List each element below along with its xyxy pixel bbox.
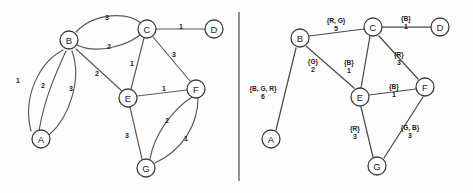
node-label-c: C [370,22,377,33]
edge-set-label: {G, B} [401,124,420,132]
edge-weight-label: 2 [41,82,45,89]
edge-weight-label: 1 [162,85,166,92]
left-panel-edges [29,16,205,163]
edge-a-b [29,50,63,131]
edge-weight-label: 3 [408,132,412,139]
edge-weight-label: 2 [165,117,169,124]
edge-set-label: {R} [394,51,404,59]
edge-weight-label: 1 [16,77,20,84]
edge-weight-label: 2 [107,43,111,50]
edge-weight-label: 3 [125,132,129,139]
edge-c-f [379,36,418,79]
edge-weight-label: 3 [172,51,176,58]
edge-weight-label: 1 [392,91,396,98]
node-label-g: G [142,163,149,174]
edge-a-b [276,48,296,130]
edge-weight-label: 3 [397,59,401,66]
node-label-b: B [297,33,303,44]
edge-c-e [361,36,370,88]
edge-weight-label: 3 [69,85,73,92]
node-label-e: E [125,93,131,104]
edge-a-b [49,51,76,135]
left-panel-nodes: ABCDEFG [32,20,223,177]
graph-figure: ABCDEFG ABCDEFG 1233221131321 {B, G, R}6… [0,0,473,193]
edge-weight-label: 1 [184,135,188,142]
edge-set-label: {B} [401,15,411,23]
node-label-a: A [38,134,45,145]
node-label-g: G [373,161,380,172]
node-label-f: F [193,84,199,95]
node-label-e: E [357,92,363,103]
edge-weight-label: 5 [334,25,338,32]
node-label-f: F [422,82,428,93]
node-label-b: B [66,35,72,46]
edge-set-label: {B} [344,59,354,67]
edge-weight-label: 1 [404,23,408,30]
edge-set-label: {G} [308,58,319,66]
node-label-a: A [268,134,275,145]
node-label-c: C [144,24,151,35]
edge-weight-label: 1 [347,67,351,74]
node-label-d: D [437,22,444,33]
edge-f-g [155,98,198,163]
edge-weight-label: 1 [130,60,134,67]
edge-set-label: {B, G, R} [249,85,277,93]
edge-e-g [130,107,142,159]
edge-weight-label: 2 [95,70,99,77]
edge-set-label: {R} [350,125,360,133]
edge-weight-label: 3 [105,14,109,21]
left-panel-edge-labels: 1233221131321 [16,14,188,142]
edge-f-g [150,97,192,159]
edge-set-label: {R, G} [327,17,346,25]
edge-b-e [76,49,122,91]
edge-weight-label: 1 [179,23,183,30]
edge-e-g [361,107,373,157]
right-panel-nodes: ABCDEFG [262,18,449,175]
edge-set-label: {B} [389,83,399,91]
graph-canvas: ABCDEFG ABCDEFG 1233221131321 {B, G, R}6… [0,0,473,193]
edge-weight-label: 3 [353,133,357,140]
edge-weight-label: 6 [261,93,265,100]
node-label-d: D [211,24,218,35]
edge-c-f [153,37,190,81]
edge-weight-label: 2 [311,66,315,73]
